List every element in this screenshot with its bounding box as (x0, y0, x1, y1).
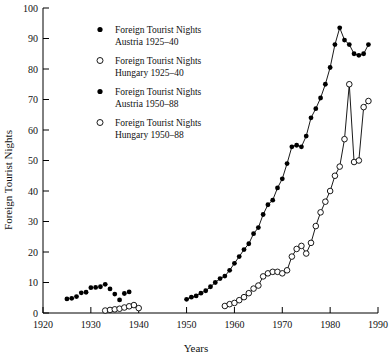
data-point (289, 254, 295, 260)
data-point (289, 144, 294, 149)
data-point (347, 42, 352, 47)
data-point (337, 164, 343, 170)
y-tick-label: 80 (28, 64, 38, 75)
data-point (327, 188, 333, 194)
y-tick-label: 30 (28, 216, 38, 227)
data-point (232, 261, 237, 266)
data-point (356, 158, 362, 164)
data-point (136, 305, 142, 311)
y-tick-label: 40 (28, 186, 38, 197)
data-point (194, 294, 199, 299)
x-tick-label: 1980 (320, 319, 340, 330)
legend-label-line1: Foreign Tourist Nights (115, 56, 202, 66)
legend-marker-filled-circle-icon (97, 89, 102, 94)
data-point (251, 231, 256, 236)
x-tick-label: 1930 (81, 319, 101, 330)
data-point (342, 136, 348, 142)
data-point (304, 134, 309, 139)
data-point (270, 198, 275, 203)
data-point (246, 241, 251, 246)
data-point (117, 297, 122, 302)
data-point (308, 240, 314, 246)
data-point (303, 251, 309, 257)
data-point (342, 38, 347, 43)
data-point (256, 225, 261, 230)
data-point (218, 276, 223, 281)
data-point (103, 282, 108, 287)
legend-label-line1: Foreign Tourist Nights (115, 118, 202, 128)
tourist-nights-chart: 0102030405060708090100 19201930194019501… (0, 0, 392, 363)
data-point (242, 247, 247, 252)
legend-marker-open-circle-icon (97, 58, 103, 64)
x-axis-title: Years (184, 342, 209, 354)
data-point (213, 280, 218, 285)
data-point (285, 161, 290, 166)
data-point (222, 274, 227, 279)
data-point (241, 294, 247, 300)
data-point (318, 210, 324, 216)
y-tick-label: 90 (28, 33, 38, 44)
legend-label-line2: Hungary 1925–40 (115, 68, 184, 78)
data-point (332, 173, 338, 179)
data-point (84, 290, 89, 295)
data-point (256, 283, 262, 289)
x-tick-label: 1970 (272, 319, 292, 330)
data-point (318, 96, 323, 101)
data-point (122, 291, 127, 296)
legend-label-line2: Austria 1925–40 (115, 37, 179, 47)
data-point (266, 202, 271, 207)
y-tick-label: 60 (28, 125, 38, 136)
data-point (227, 268, 232, 273)
data-point (237, 254, 242, 259)
x-tick-label: 1960 (224, 319, 244, 330)
data-point (356, 53, 361, 58)
data-point (98, 284, 103, 289)
legend-marker-open-circle-icon (97, 120, 103, 126)
data-point (284, 268, 290, 274)
data-point (299, 144, 304, 149)
data-point (346, 81, 352, 87)
data-point (323, 82, 328, 87)
data-point (208, 284, 213, 289)
legend-label-line2: Austria 1950–88 (115, 99, 179, 109)
data-point (108, 287, 113, 292)
data-point (65, 297, 70, 302)
data-point (313, 106, 318, 111)
data-point (74, 294, 79, 299)
legend-label-line1: Foreign Tourist Nights (115, 25, 202, 35)
data-point (333, 42, 338, 47)
y-tick-label: 10 (28, 277, 38, 288)
data-point (112, 292, 117, 297)
data-point (261, 212, 266, 217)
data-point (352, 51, 357, 56)
data-point (366, 42, 371, 47)
y-tick-label: 100 (23, 3, 38, 14)
legend-marker-filled-circle-icon (97, 27, 102, 32)
data-point (361, 51, 366, 56)
data-point (313, 223, 319, 229)
data-point (361, 104, 367, 110)
data-point (189, 295, 194, 300)
y-axis-title: Foreign Tourist Nights (2, 130, 14, 230)
chart-figure: 0102030405060708090100 19201930194019501… (0, 0, 392, 363)
data-point (299, 243, 305, 249)
data-point (93, 285, 98, 290)
data-point (88, 285, 93, 290)
data-point (246, 290, 252, 296)
data-point (323, 199, 329, 205)
x-tick-label: 1940 (129, 319, 149, 330)
y-tick-label: 0 (33, 308, 38, 319)
data-point (199, 291, 204, 296)
x-tick-label: 1990 (368, 319, 388, 330)
data-point (79, 290, 84, 295)
data-point (69, 296, 74, 301)
data-point (184, 297, 189, 302)
data-point (309, 115, 314, 120)
x-tick-label: 1920 (33, 319, 53, 330)
data-point (328, 65, 333, 70)
data-point (337, 25, 342, 30)
data-point (127, 290, 132, 295)
legend-label-line2: Hungary 1950–88 (115, 130, 184, 140)
y-tick-label: 20 (28, 247, 38, 258)
y-tick-label: 70 (28, 94, 38, 105)
